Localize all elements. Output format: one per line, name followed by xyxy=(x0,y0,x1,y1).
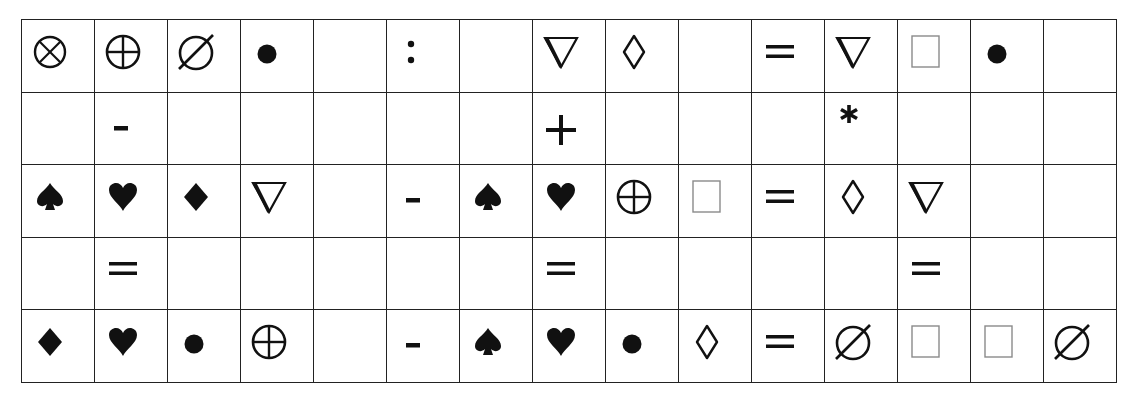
grid-cell xyxy=(1044,238,1117,311)
minus-icon xyxy=(406,343,420,348)
grid-cell xyxy=(971,93,1044,166)
equals-icon xyxy=(547,262,575,276)
grid-cell xyxy=(241,165,314,238)
grid-cell xyxy=(898,165,971,238)
circled-plus-icon xyxy=(251,324,287,360)
minus-icon xyxy=(406,198,420,203)
grid-cell xyxy=(752,238,825,311)
grid-cell xyxy=(22,238,95,311)
grid-cell xyxy=(898,310,971,383)
grid-cell xyxy=(168,93,241,166)
grid-cell xyxy=(679,238,752,311)
grid-cell xyxy=(241,310,314,383)
grid-cell xyxy=(22,93,95,166)
grid-cell xyxy=(825,310,898,383)
grid-cell xyxy=(314,238,387,311)
grid-cell xyxy=(679,310,752,383)
grid-cell xyxy=(241,93,314,166)
bullet-icon xyxy=(986,43,1008,65)
nabla-icon xyxy=(835,35,871,69)
bullet-icon xyxy=(621,333,643,355)
grid-cell xyxy=(387,165,460,238)
grid-cell xyxy=(314,165,387,238)
grid-cell xyxy=(606,20,679,93)
heart-icon xyxy=(546,327,576,357)
equals-icon xyxy=(766,45,794,59)
grid-cell xyxy=(606,310,679,383)
grid-cell xyxy=(825,93,898,166)
grid-cell xyxy=(533,93,606,166)
grid-cell xyxy=(168,165,241,238)
grid-cell xyxy=(752,165,825,238)
grid-cell xyxy=(1044,165,1117,238)
grid-cell xyxy=(460,93,533,166)
grid-cell xyxy=(971,165,1044,238)
diamond-icon xyxy=(183,182,209,212)
lozenge-icon xyxy=(622,34,646,70)
grid-cell xyxy=(752,20,825,93)
grid-cell xyxy=(1044,20,1117,93)
grid-cell xyxy=(168,238,241,311)
grid-cell xyxy=(95,165,168,238)
equals-icon xyxy=(766,335,794,349)
spade-icon xyxy=(35,182,65,212)
grid-cell xyxy=(606,165,679,238)
colon-icon xyxy=(406,40,416,64)
grid-cell xyxy=(387,20,460,93)
symbol-grid xyxy=(21,19,1117,383)
empty-set-icon xyxy=(1052,322,1092,362)
equals-icon xyxy=(109,262,137,276)
grid-cell xyxy=(971,238,1044,311)
diamond-icon xyxy=(37,327,63,357)
bullet-icon xyxy=(183,333,205,355)
equals-icon xyxy=(912,262,940,276)
square-icon xyxy=(984,325,1014,359)
grid-cell xyxy=(825,238,898,311)
grid-cell xyxy=(168,310,241,383)
minus-icon xyxy=(114,126,128,131)
grid-cell xyxy=(314,20,387,93)
grid-cell xyxy=(387,238,460,311)
square-icon xyxy=(911,325,941,359)
circled-plus-icon xyxy=(616,179,652,215)
circled-times-icon xyxy=(33,35,67,69)
grid-cell xyxy=(898,238,971,311)
grid-cell xyxy=(679,93,752,166)
grid-cell xyxy=(460,20,533,93)
grid-cell xyxy=(533,20,606,93)
grid-cell xyxy=(971,310,1044,383)
nabla-icon xyxy=(543,35,579,69)
grid-cell xyxy=(95,310,168,383)
nabla-icon xyxy=(908,180,944,214)
grid-cell xyxy=(533,310,606,383)
grid-cell xyxy=(22,165,95,238)
grid-cell xyxy=(95,20,168,93)
grid-cell xyxy=(1044,310,1117,383)
bullet-icon xyxy=(256,43,278,65)
grid-cell xyxy=(679,20,752,93)
spade-icon xyxy=(473,327,503,357)
grid-cell xyxy=(314,93,387,166)
grid-cell xyxy=(825,20,898,93)
grid-cell xyxy=(679,165,752,238)
grid-cell xyxy=(241,20,314,93)
grid-cell xyxy=(95,238,168,311)
grid-cell xyxy=(387,310,460,383)
grid-cell xyxy=(1044,93,1117,166)
plus-icon xyxy=(546,115,576,145)
empty-set-icon xyxy=(833,322,873,362)
square-icon xyxy=(911,35,941,69)
empty-set-icon xyxy=(176,32,216,72)
grid-cell xyxy=(168,20,241,93)
grid-cell xyxy=(95,93,168,166)
grid-cell xyxy=(752,93,825,166)
grid-cell xyxy=(752,310,825,383)
grid-cell xyxy=(460,310,533,383)
grid-cell xyxy=(241,238,314,311)
square-icon xyxy=(692,180,722,214)
grid-cell xyxy=(898,20,971,93)
grid-cell xyxy=(387,93,460,166)
heart-icon xyxy=(546,182,576,212)
spade-icon xyxy=(473,182,503,212)
circled-plus-icon xyxy=(105,34,141,70)
